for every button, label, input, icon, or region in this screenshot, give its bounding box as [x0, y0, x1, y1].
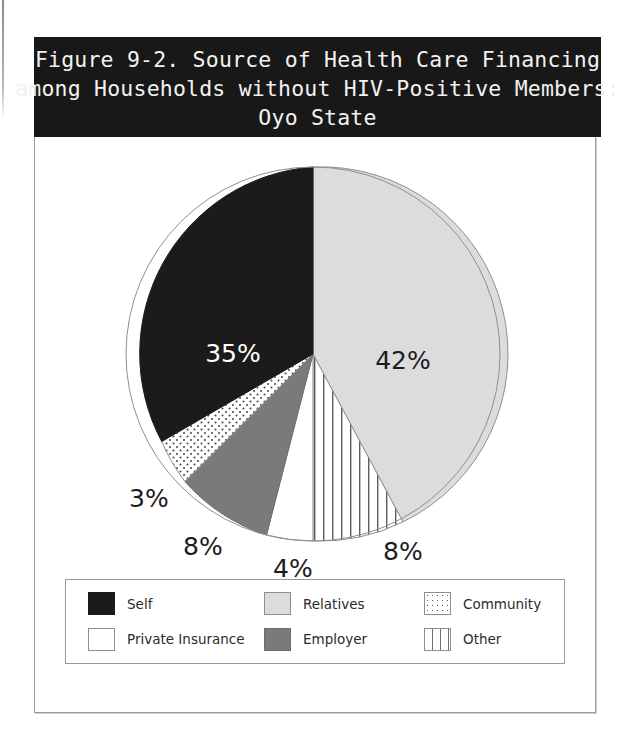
legend-item-employer[interactable]: Employer: [264, 628, 424, 651]
pie-label-other: 8%: [383, 537, 423, 566]
legend-item-other[interactable]: Other: [424, 628, 588, 651]
legend-label-other: Other: [463, 631, 501, 647]
legend-label-employer: Employer: [303, 631, 367, 647]
chart-legend: Self Relatives Community Private Insuran…: [65, 579, 565, 664]
legend-swatch-community-icon: [424, 592, 451, 615]
legend-item-self[interactable]: Self: [88, 592, 264, 615]
chart-frame: 35% 42% 3% 8% 4% 8% Self Relatives Commu…: [34, 137, 596, 713]
legend-swatch-employer-icon: [264, 628, 291, 651]
pie-chart-svg: 35% 42%: [35, 137, 597, 567]
page-scan-edge: [2, 0, 4, 120]
legend-swatch-relatives-icon: [264, 592, 291, 615]
legend-label-relatives: Relatives: [303, 596, 364, 612]
legend-item-private-insurance[interactable]: Private Insurance: [88, 628, 264, 651]
figure-title-line-1: Figure 9-2. Source of Health Care Financ…: [35, 45, 600, 74]
figure-title-band: Figure 9-2. Source of Health Care Financ…: [34, 37, 601, 137]
legend-swatch-other-icon: [424, 628, 451, 651]
pie-label-employer: 8%: [183, 532, 223, 561]
legend-label-private-insurance: Private Insurance: [127, 631, 245, 647]
legend-item-relatives[interactable]: Relatives: [264, 592, 424, 615]
legend-label-community: Community: [463, 596, 541, 612]
legend-swatch-private-insurance-icon: [88, 628, 115, 651]
figure-title-line-3: Oyo State: [258, 103, 376, 132]
legend-item-community[interactable]: Community: [424, 592, 588, 615]
pie-label-relatives: 42%: [375, 346, 431, 375]
legend-label-self: Self: [127, 596, 152, 612]
legend-swatch-self-icon: [88, 592, 115, 615]
pie-label-community: 3%: [129, 484, 169, 513]
figure-title-line-2: among Households without HIV-Positive Me…: [15, 74, 620, 103]
pie-label-self: 35%: [205, 339, 261, 368]
pie-chart: 35% 42% 3% 8% 4% 8%: [35, 137, 597, 567]
